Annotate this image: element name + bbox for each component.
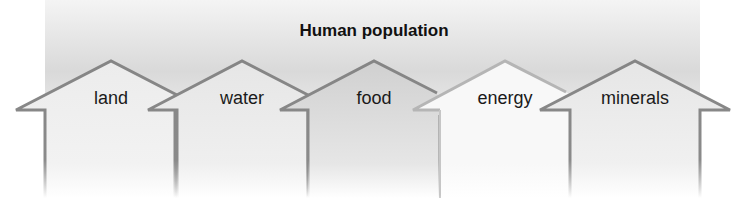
- arrow-label-energy: energy: [440, 88, 570, 109]
- arrow-label-water: water: [177, 88, 307, 109]
- arrow-label-food: food: [309, 88, 439, 109]
- arrow-label-minerals: minerals: [570, 88, 700, 109]
- arrow-label-land: land: [46, 88, 176, 109]
